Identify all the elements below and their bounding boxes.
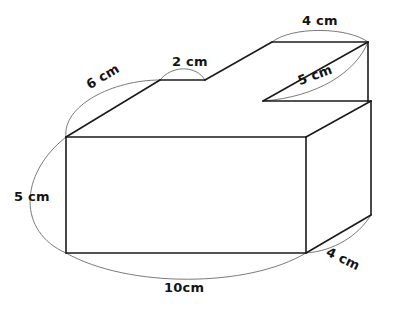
geometry-figure: 4 cm 2 cm 6 cm 5 cm 5 cm 4 cm 10cm	[0, 0, 393, 313]
dimension-label-front-height: 5 cm	[14, 190, 50, 203]
dimension-label-top-step-width: 4 cm	[302, 14, 338, 27]
front-face	[66, 137, 306, 253]
solid-shape-svg	[0, 0, 393, 313]
dimension-label-base-length: 10cm	[164, 281, 204, 294]
leader-arc-4cm-top	[272, 30, 368, 42]
leader-arc-2cm	[160, 69, 205, 80]
dimension-label-notch-width: 2 cm	[172, 55, 208, 68]
